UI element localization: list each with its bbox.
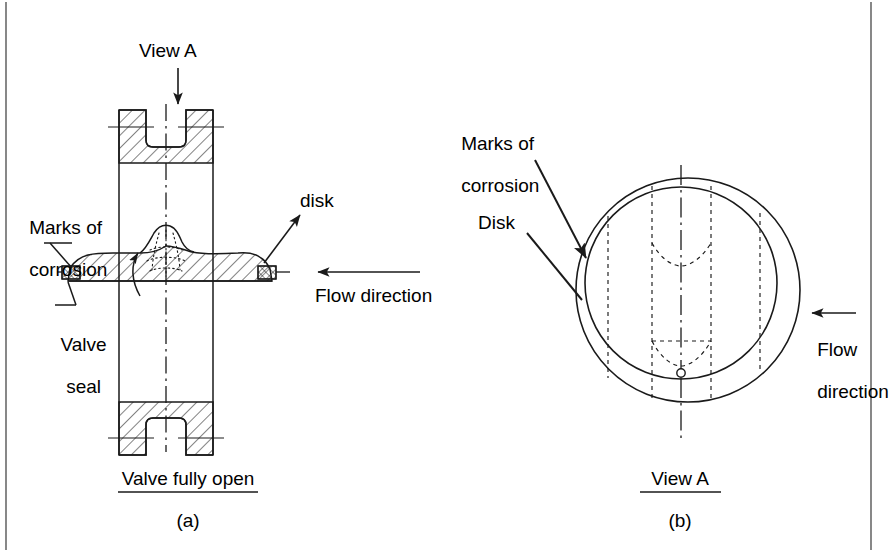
- valve-seal-line1: Valve: [61, 334, 107, 355]
- hidden-flange-edges: [608, 186, 760, 398]
- shaft-pin: [677, 369, 685, 377]
- marks-of-corrosion-line2: corrosion: [29, 259, 107, 280]
- outer-bore-circle: [576, 178, 800, 402]
- panel-a-caption: (a): [148, 510, 228, 531]
- flow-direction-label-b: Flow direction: [796, 318, 889, 423]
- valve-seal-right: [258, 266, 290, 279]
- valve-seal-line2: seal: [66, 376, 101, 397]
- marks-of-corrosion-b-line2: corrosion: [461, 175, 539, 196]
- marks-of-corrosion-label-b: Marks of corrosion: [440, 112, 539, 217]
- marks-of-corrosion-label-a: Marks of corrosion: [8, 196, 107, 301]
- marks-of-corrosion-line1: Marks of: [29, 217, 102, 238]
- view-a-label: View A: [139, 40, 197, 61]
- flow-direction-label-a: Flow direction: [315, 285, 432, 306]
- flow-direction-b-line1: Flow: [817, 339, 857, 360]
- panel-b-subtitle: View A: [630, 468, 730, 489]
- valve-seal-label: Valve seal: [28, 313, 118, 418]
- disk-label-a: disk: [300, 190, 334, 211]
- panel-b-caption: (b): [640, 510, 720, 531]
- flow-direction-b-line2: direction: [817, 381, 889, 402]
- disk-leader-a: [264, 215, 300, 263]
- disk-leader-b: [527, 233, 582, 300]
- marks-of-corrosion-leader-b: [535, 160, 586, 258]
- marks-of-corrosion-b-line1: Marks of: [461, 133, 534, 154]
- panel-a-subtitle: Valve fully open: [108, 468, 268, 489]
- disk-label-b: Disk: [478, 212, 515, 233]
